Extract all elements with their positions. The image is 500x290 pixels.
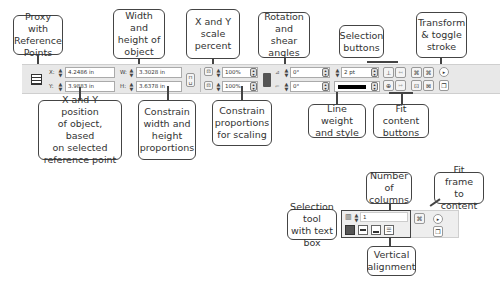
x-label: X: [49, 67, 55, 78]
stroke-weight-stepper-icon[interactable]: ▲▼ [335, 68, 340, 77]
callout-rotation: Rotation and shear angles [258, 12, 310, 58]
callout-proxy: Proxy with Reference Points [13, 15, 63, 55]
callout-columns: Number of columns [366, 172, 412, 204]
callout-line-weight: Line weight and style [308, 104, 366, 138]
h-label: H: [120, 81, 126, 92]
callout-selection: Selection buttons [339, 25, 384, 58]
scale-x-dropdown-icon[interactable]: ▴▾ [250, 68, 257, 77]
connector [241, 86, 243, 100]
select-container-button[interactable]: ⊥ [383, 67, 394, 78]
constrain-width-height-button[interactable]: ⊓⊔ [186, 73, 195, 87]
callout-width-height: Width and height of object [113, 9, 165, 59]
toggle-stroke-button-2[interactable]: ❐ [433, 226, 443, 237]
shear-angle-icon: ⌐ [275, 81, 280, 92]
connector [167, 86, 169, 100]
callout-fit-frame: Fit frame to content [434, 172, 484, 204]
control-panel-toolbar: X: ▲▼ 4.2486 in Y: ▲▼ 3.9883 in W: ▲▼ 3.… [22, 64, 500, 94]
rotation-stepper-icon[interactable]: ▲▼ [284, 68, 289, 77]
connector [389, 238, 391, 246]
callout-constrain-scale: Constrain proportions for scaling [212, 100, 272, 146]
width-field[interactable]: 3.3028 in [136, 67, 182, 78]
callout-scale: X and Y scale percent [186, 9, 240, 59]
columns-icon: ▥ [345, 213, 352, 222]
callout-xy-position: X and Y position of object, based on sel… [38, 100, 122, 160]
height-field[interactable]: 3.6378 in [136, 81, 182, 92]
text-frame-toolbar: ▥ ▲▼ 1 ☰ [341, 210, 411, 238]
scale-y-icon: ⊡ [204, 81, 213, 90]
scale-y-dropdown-icon[interactable]: ▴▾ [250, 82, 257, 91]
callout-constrain-wh: Constrain width and height proportions [138, 100, 196, 160]
scale-y-stepper-icon[interactable]: ▲▼ [216, 82, 221, 91]
h-stepper-icon[interactable]: ▲▼ [129, 82, 134, 91]
rotation-angle-icon: ⊿ [275, 67, 280, 78]
align-center-button[interactable] [358, 225, 368, 235]
transform-again-button[interactable]: ▸ [439, 67, 449, 77]
w-stepper-icon[interactable]: ▲▼ [129, 68, 134, 77]
rotation-dropdown-icon[interactable]: ▴▾ [322, 68, 329, 77]
shear-stepper-icon[interactable]: ▲▼ [284, 82, 289, 91]
callout-vertical-alignment: Vertical alignment [367, 246, 416, 276]
x-position-field[interactable]: 4.2486 in [65, 67, 115, 78]
stroke-weight-dropdown-icon[interactable]: ▴▾ [371, 68, 378, 77]
y-stepper-icon[interactable]: ▲▼ [58, 82, 63, 91]
callout-selection-tool: Selection tool with text box [287, 209, 337, 240]
align-top-button[interactable] [345, 225, 355, 235]
callout-fit-content: Fit content buttons [373, 104, 429, 138]
connector [367, 61, 398, 63]
stroke-style-swatch [338, 85, 366, 89]
fit-frame-to-content-button[interactable]: ⌘ [423, 67, 434, 78]
connector [389, 92, 413, 94]
divider [200, 68, 201, 92]
y-position-field[interactable]: 3.9883 in [65, 81, 115, 92]
callout-transform: Transform & toggle stroke [416, 12, 467, 58]
align-bottom-button[interactable] [371, 225, 381, 235]
justify-vertically-button[interactable]: ☰ [384, 225, 394, 235]
w-label: W: [120, 67, 127, 78]
constrain-scale-button[interactable] [263, 73, 271, 87]
scale-x-icon: ⊡ [204, 67, 213, 76]
reference-point-proxy-icon[interactable] [31, 74, 42, 85]
columns-field[interactable]: 1 [360, 212, 408, 222]
select-next-button[interactable]: ↦ [395, 80, 406, 91]
shear-dropdown-icon[interactable]: ▴▾ [322, 82, 329, 91]
y-label: Y: [49, 81, 53, 92]
stroke-style-dropdown-icon[interactable]: ▴▾ [371, 82, 378, 91]
fill-frame-proportionally-button[interactable]: ⊠ [423, 80, 434, 91]
columns-stepper-icon[interactable]: ▲▼ [354, 213, 359, 222]
x-stepper-icon[interactable]: ▲▼ [58, 68, 63, 77]
fit-frame-to-content-button-2[interactable]: ⌘ [414, 213, 425, 224]
select-content-button[interactable]: ⊕ [383, 80, 394, 91]
text-frame-toolbar-extra: ⌘ ▸ ❐ [411, 210, 459, 238]
center-content-button[interactable]: ⊡ [411, 80, 422, 91]
select-previous-button[interactable]: ↤ [395, 67, 406, 78]
transform-again-button-2[interactable]: ▸ [433, 214, 443, 224]
fit-content-to-frame-button[interactable]: ⌘ [411, 67, 422, 78]
scale-x-stepper-icon[interactable]: ▲▼ [216, 68, 221, 77]
toggle-stroke-button[interactable]: ❐ [439, 80, 449, 91]
